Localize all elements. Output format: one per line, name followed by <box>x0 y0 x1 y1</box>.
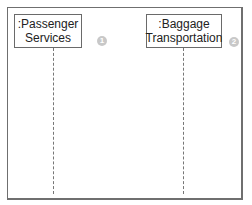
lifeline-label-line2: Transportation <box>146 31 223 45</box>
lifeline-baggage-transportation: :Baggage Transportation <box>146 14 222 48</box>
number-badge-icon: 1 <box>97 36 107 46</box>
lifeline-label-line1: :Passenger <box>18 17 79 31</box>
lifeline-dashed-line <box>183 48 184 194</box>
lifeline-label-line1: :Baggage <box>158 17 209 31</box>
lifeline-passenger-services: :Passenger Services <box>14 14 82 48</box>
number-badge-icon: 2 <box>229 37 239 47</box>
lifeline-label-line2: Services <box>25 31 71 45</box>
lifeline-dashed-line <box>53 48 54 194</box>
